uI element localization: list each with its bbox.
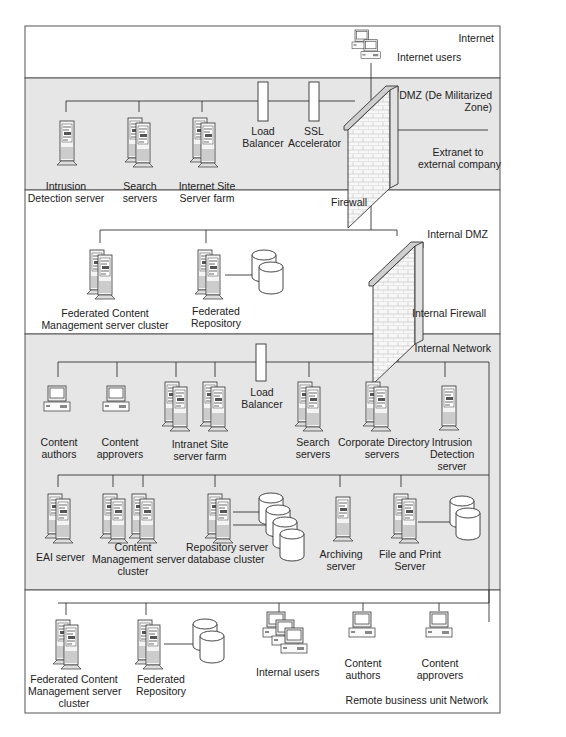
label-line: servers — [291, 448, 335, 460]
load-balancer-icon — [258, 82, 268, 121]
federated-cm-cluster-label: Federated Content Management server clus… — [40, 307, 170, 331]
load-balancer-icon — [256, 344, 266, 381]
internal-users-label: Internal users — [256, 666, 320, 678]
label-line: Server — [378, 560, 442, 572]
label-line: Intrusion — [26, 180, 106, 192]
content-authors-pc-icon — [44, 386, 70, 411]
label-line: Repository — [186, 317, 246, 329]
label-line: external company — [418, 158, 498, 170]
label-line: Content — [92, 541, 174, 553]
internet-users-label: Internet users — [397, 51, 461, 63]
disk-icon — [200, 631, 224, 663]
label-line: authors — [36, 448, 82, 460]
content-authors-label: Content authors — [340, 657, 386, 681]
internet-site-server-farm-icon — [190, 118, 218, 167]
label-line: Management server — [28, 685, 120, 697]
archiving-server-icon — [333, 497, 353, 541]
label-line: authors — [340, 669, 386, 681]
eai-server-icon — [45, 494, 73, 543]
cm-server-cluster-icon — [129, 494, 157, 543]
search-servers-label: Search servers — [291, 436, 335, 460]
archiving-server-label: Archiving server — [318, 548, 364, 572]
search-servers-label: Search servers — [118, 180, 162, 204]
label-line: Corporate Directory — [338, 436, 426, 448]
intranet-site-server-icon — [162, 382, 190, 431]
label-line: Content — [36, 436, 82, 448]
file-print-server-icon — [391, 494, 419, 543]
repository-cluster-label: Repository server database cluster — [186, 541, 266, 565]
label-line: Load — [241, 125, 285, 137]
disk-icon — [280, 529, 304, 561]
zone-label-dmz-line2: Zone) — [399, 101, 492, 113]
label-line: File and Print — [378, 548, 442, 560]
label-line: Repository — [131, 685, 191, 697]
label-line: database cluster — [186, 553, 266, 565]
federated-repository-label: Federated Repository — [186, 305, 246, 329]
search-servers-icon — [295, 382, 323, 431]
label-line: server — [318, 560, 364, 572]
file-print-server-label: File and Print Server — [378, 548, 442, 572]
label-line: cluster — [92, 565, 174, 577]
label-line: servers — [338, 448, 426, 460]
label-line: Intranet Site — [168, 438, 232, 450]
label-line: Intrusion — [430, 436, 474, 448]
label-line: Content — [340, 657, 386, 669]
intrusion-detection-server-icon — [57, 121, 77, 165]
label-line: Search — [291, 436, 335, 448]
repository-cluster-icon — [205, 494, 233, 543]
federated-repository-icon — [195, 250, 223, 299]
corporate-directory-servers-icon — [363, 382, 391, 431]
label-line: Content — [414, 657, 466, 669]
label-line: Federated — [186, 305, 246, 317]
corporate-directory-label: Corporate Directory servers — [338, 436, 426, 460]
eai-server-label: EAI server — [36, 551, 85, 563]
zone-label-remote: Remote business unit Network — [346, 694, 488, 706]
cm-cluster-label: Content Management server cluster — [92, 541, 174, 577]
content-approvers-pc-icon — [103, 386, 129, 411]
zone-label-internet: Internet — [458, 32, 494, 44]
label-line: Federated — [131, 673, 191, 685]
federated-cm-cluster-icon — [53, 620, 81, 669]
internet-site-label: Internet Site Server farm — [177, 180, 237, 204]
disk-icon — [259, 262, 283, 294]
federated-cm-cluster-icon — [87, 250, 115, 299]
label-line: Load — [240, 386, 284, 398]
label-line: Accelerator — [288, 137, 340, 149]
label-line: Internet Site — [177, 180, 237, 192]
label-line: Federated Content — [28, 673, 120, 685]
label-line: Repository server — [186, 541, 266, 553]
zone-label-internal-dmz: Internal DMZ — [427, 228, 488, 240]
cm-server-cluster-icon — [100, 494, 128, 543]
label-line: Management server — [92, 553, 174, 565]
load-balancer-label: Load Balancer — [240, 386, 284, 410]
label-line: Content — [94, 436, 146, 448]
federated-repository-label: Federated Repository — [131, 673, 191, 697]
label-line: Detection server — [26, 192, 106, 204]
label-line: server — [430, 460, 474, 472]
label-line: servers — [118, 192, 162, 204]
content-authors-pc-icon — [349, 612, 375, 637]
intrusion-detection-server-icon — [439, 386, 459, 430]
extranet-label: Extranet to external company — [418, 146, 498, 170]
disk-icon — [456, 508, 480, 540]
label-line: approvers — [94, 448, 146, 460]
internal-firewall-label: Internal Firewall — [412, 307, 486, 319]
label-line: Archiving — [318, 548, 364, 560]
label-line: approvers — [414, 669, 466, 681]
content-approvers-pc-icon — [426, 612, 452, 637]
zone-label-dmz-line1: DMZ (De Militarized — [399, 89, 492, 101]
label-line: server farm — [168, 450, 232, 462]
zone-label-dmz: DMZ (De Militarized Zone) — [399, 89, 492, 113]
label-line: Server farm — [177, 192, 237, 204]
label-line: SSL — [288, 125, 340, 137]
content-approvers-label: Content approvers — [414, 657, 466, 681]
label-line: Extranet to — [418, 146, 498, 158]
label-line: Management server cluster — [40, 319, 170, 331]
intrusion-detection-label: Intrusion Detection server — [26, 180, 106, 204]
firewall-label: Firewall — [331, 196, 367, 208]
zone-label-internal-network: Internal Network — [415, 342, 491, 354]
ssl-accelerator-icon — [309, 82, 319, 121]
label-line: Balancer — [241, 137, 285, 149]
label-line: Balancer — [240, 398, 284, 410]
label-line: Search — [118, 180, 162, 192]
